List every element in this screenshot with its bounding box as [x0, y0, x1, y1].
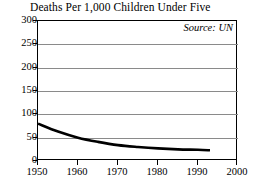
y-tick-label-250: 250: [3, 38, 37, 48]
x-tick-mark-1970: [117, 160, 118, 165]
y-tick-mark-150: [33, 90, 37, 91]
x-tick-label-1980: 1980: [147, 166, 168, 177]
x-tick-mark-2000: [236, 160, 237, 165]
x-tick-label-1990: 1990: [187, 166, 208, 177]
y-tick-mark-50: [33, 137, 37, 138]
x-tick-label-1950: 1950: [27, 166, 48, 177]
x-tick-mark-1960: [77, 160, 78, 165]
y-tick-label-300: 300: [3, 15, 37, 25]
y-axis: 050100150200250300: [0, 20, 37, 160]
plot-area: [37, 20, 237, 160]
x-tick-label-2000: 2000: [227, 166, 248, 177]
x-tick-label-1960: 1960: [67, 166, 88, 177]
y-tick-label-50: 50: [3, 132, 37, 142]
x-tick-mark-1950: [37, 160, 38, 165]
chart-title: Deaths Per 1,000 Children Under Five: [30, 1, 211, 13]
data-series-line: [38, 21, 238, 161]
y-tick-label-150: 150: [3, 85, 37, 95]
y-tick-label-100: 100: [3, 108, 37, 118]
x-tick-mark-1980: [157, 160, 158, 165]
x-tick-label-1970: 1970: [107, 166, 128, 177]
y-tick-mark-100: [33, 113, 37, 114]
y-tick-label-200: 200: [3, 62, 37, 72]
y-tick-mark-250: [33, 43, 37, 44]
y-tick-mark-300: [33, 20, 37, 21]
series-path-0: [38, 124, 210, 151]
source-annotation: Source: UN: [184, 22, 233, 33]
y-tick-label-0: 0: [3, 155, 37, 165]
y-tick-mark-200: [33, 67, 37, 68]
chart-container: Deaths Per 1,000 Children Under Five Sou…: [0, 0, 257, 185]
x-tick-mark-1990: [197, 160, 198, 165]
x-axis: 195019601970198019902000: [37, 160, 237, 184]
